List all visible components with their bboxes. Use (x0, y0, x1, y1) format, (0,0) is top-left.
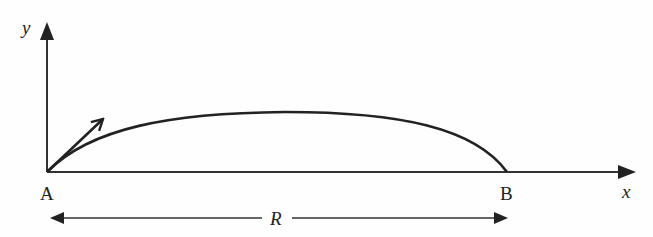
range-label: R (270, 209, 282, 228)
x-axis (47, 165, 636, 179)
y-axis-arrowhead-icon (40, 22, 54, 40)
x-axis-label: x (622, 182, 630, 201)
y-axis-label: y (22, 18, 30, 37)
velocity-vector (47, 119, 103, 172)
projectile-diagram: y x A B R (0, 0, 653, 237)
point-a-label: A (40, 184, 54, 203)
range-left-arrowhead-icon (50, 212, 64, 224)
y-axis (40, 22, 54, 172)
point-b-label: B (500, 184, 513, 203)
range-right-arrowhead-icon (494, 212, 508, 224)
trajectory-curve (47, 112, 507, 172)
x-axis-arrowhead-icon (618, 165, 636, 179)
diagram-graphics (0, 0, 653, 237)
